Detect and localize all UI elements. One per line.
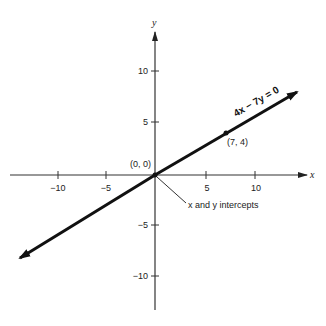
x-tick-label: −10 bbox=[50, 183, 65, 193]
y-tick-label: −5 bbox=[138, 220, 148, 230]
intercepts-leader-line bbox=[157, 177, 186, 203]
point-origin bbox=[153, 173, 158, 178]
x-axis-label: x bbox=[309, 169, 315, 180]
origin-label: (0, 0) bbox=[130, 159, 151, 169]
coordinate-plane: −10 −5 5 10 10 5 −5 −10 x y (0, 0) (7, 4… bbox=[0, 0, 326, 326]
equation-label: 4x − 7y = 0 bbox=[232, 84, 282, 119]
line-4x-7y-0-lower bbox=[20, 175, 155, 258]
intercepts-annotation: x and y intercepts bbox=[188, 200, 259, 210]
x-tick-label: −5 bbox=[101, 183, 111, 193]
point-7-4-label: (7, 4) bbox=[227, 137, 248, 147]
x-tick-label: 5 bbox=[204, 183, 209, 193]
y-tick-label: −10 bbox=[133, 271, 148, 281]
y-tick-label: 10 bbox=[138, 66, 148, 76]
x-tick-label: 10 bbox=[251, 183, 261, 193]
y-axis-label: y bbox=[151, 17, 157, 28]
point-7-4 bbox=[224, 131, 229, 136]
y-tick-label: 5 bbox=[143, 117, 148, 127]
